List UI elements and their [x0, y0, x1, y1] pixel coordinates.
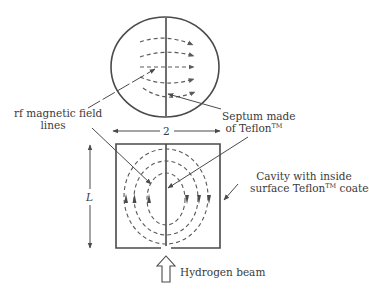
septum-label-line1: Septum made — [222, 110, 286, 122]
septum-label-leader-top — [168, 94, 221, 109]
cavity-box-outline — [116, 144, 220, 248]
length-dimension-label: L — [86, 191, 93, 203]
side-view-cavity — [116, 144, 220, 248]
field-line-5 — [143, 88, 195, 97]
rf-field-label: rf magnetic field lines — [14, 107, 92, 131]
hydrogen-beam-arrow-icon — [157, 256, 175, 282]
field-line-2 — [140, 52, 194, 57]
top-view-cavity — [111, 17, 219, 117]
septum-label: Septum made of TeflonTM — [222, 110, 286, 134]
up-arrow-icon — [124, 194, 128, 203]
rf-field-lines-top — [140, 38, 195, 97]
rf-label-leader-top — [88, 69, 155, 108]
down-arrow-icon — [185, 195, 189, 204]
cavity-label-leader — [224, 184, 238, 200]
cavity-label: Cavity with inside surface TeflonTM coat… — [250, 170, 358, 194]
up-arrow-icon — [133, 194, 137, 203]
septum-label-line2: of TeflonTM — [222, 122, 286, 134]
hydrogen-maser-cavity-diagram — [0, 0, 369, 294]
field-direction-arrows — [124, 194, 211, 204]
cavity-label-line2: surface TeflonTM coated — [250, 182, 358, 194]
rf-field-label-line1: rf magnetic field — [14, 107, 92, 119]
rf-field-label-line2: lines — [14, 119, 92, 131]
rf-label-leader-bottom — [92, 128, 151, 184]
field-line-4 — [140, 77, 194, 83]
up-arrow-icon — [147, 194, 151, 203]
cavity-label-line1: Cavity with inside — [250, 170, 358, 182]
width-dimension-label: 2 — [163, 125, 170, 137]
hydrogen-beam-label: Hydrogen beam — [180, 266, 265, 278]
